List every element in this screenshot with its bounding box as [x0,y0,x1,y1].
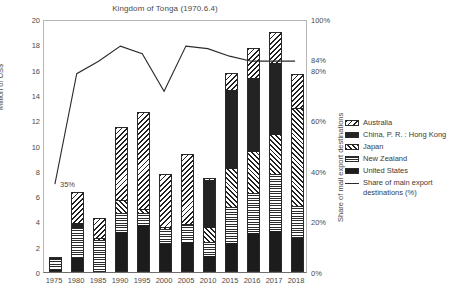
legend-item-united-states: United States [345,166,456,176]
y-axis-title: Million of US$ [0,64,5,110]
legend-item-label: Japan [363,142,383,152]
y-tick-0: 0 [18,269,40,278]
legend-item-label: Australia [363,118,392,128]
y2-tick-80pct: 80% [311,66,341,75]
y-tick-6: 6 [18,193,40,202]
legend-swatch-icon [345,168,359,174]
x-tick-2018: 2018 [281,276,311,285]
y-tick-18: 18 [18,41,40,50]
y-tick-4: 4 [18,218,40,227]
y-tick-14: 14 [18,91,40,100]
y2-tick-60pct: 60% [311,117,341,126]
annotation-35-percent: 35% [60,180,75,189]
y2-tick-0pct: 0% [311,269,341,278]
legend-swatch-icon [345,156,359,162]
legend-item-label: China, P. R. : Hong Kong [363,130,446,140]
legend-item-japan: Japan [345,142,456,152]
legend-item-share-of-main-export-destinations: Share of main export destinations (%) [345,178,456,197]
y-tick-2: 2 [18,243,40,252]
y-tick-16: 16 [18,66,40,75]
legend-item-label: Share of main export destinations (%) [363,178,456,197]
legend-item-australia: Australia [345,118,456,128]
legend-swatch-icon [345,183,359,184]
legend-swatch-icon [345,144,359,150]
y-tick-10: 10 [18,142,40,151]
y-tick-8: 8 [18,167,40,176]
y-tick-20: 20 [18,16,40,25]
legend-item-label: New Zealand [363,154,407,164]
y-tick-12: 12 [18,117,40,126]
chart-legend: AustraliaChina, P. R. : Hong KongJapanNe… [345,118,456,200]
y2-tick-100pct: 100% [311,16,341,25]
legend-item-new-zealand: New Zealand [345,154,456,164]
share-line-series [44,21,306,272]
y2-tick-84pct: 84% [311,56,341,65]
plot-area [43,20,307,273]
legend-swatch-icon [345,132,359,138]
y2-tick-40pct: 40% [311,167,341,176]
y2-tick-20pct: 20% [311,218,341,227]
legend-item-china-p-r-hong-kong: China, P. R. : Hong Kong [345,130,456,140]
legend-swatch-icon [345,120,359,126]
chart-title: Kingdom of Tonga (1970.6.4) [0,4,330,13]
legend-item-label: United States [363,166,408,176]
